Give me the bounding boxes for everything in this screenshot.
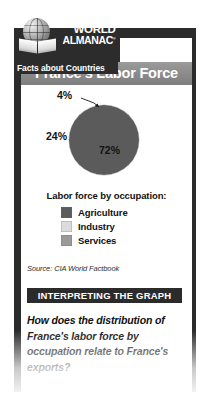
world-almanac-logo [18, 18, 58, 58]
pie-label-industry: 24% [46, 130, 67, 142]
pie-label-services: 72% [99, 144, 120, 156]
pie-chart: 4% 24% 72% [21, 88, 192, 186]
chart-source: Source: CIA World Factbook [27, 264, 119, 273]
book-page-left [19, 38, 37, 53]
interpreting-banner: INTERPRETING THE GRAPH [27, 288, 182, 303]
chart-legend: Labor force by occupation: Agriculture I… [21, 190, 192, 249]
legend-label-agriculture: Agriculture [78, 207, 128, 218]
open-book-icon [18, 38, 58, 54]
legend-item-industry: Industry [61, 221, 192, 232]
legend-label-services: Services [78, 235, 116, 246]
brand-wordmark: THEWORLD ALMANAC® [60, 20, 118, 46]
masthead: THEWORLD ALMANAC® Facts about Countries [14, 18, 120, 62]
legend-title: Labor force by occupation: [21, 190, 192, 201]
pie-slices [69, 105, 139, 175]
legend-item-services: Services [61, 235, 192, 246]
pie-label-agriculture: 4% [57, 89, 72, 101]
legend-swatch-agriculture [61, 207, 72, 218]
leader-line-agriculture [81, 97, 101, 108]
brand-the: THE [63, 21, 73, 26]
legend-item-agriculture: Agriculture [61, 207, 192, 218]
almanac-graph-card: THEWORLD ALMANAC® Facts about Countries … [0, 0, 209, 400]
brand-almanac: ALMANAC® [60, 35, 118, 46]
legend-swatch-industry [61, 221, 72, 232]
brand-almanac-text: ALMANAC [63, 34, 113, 46]
legend-swatch-services [61, 235, 72, 246]
legend-label-industry: Industry [78, 221, 115, 232]
book-page-right [38, 38, 56, 53]
brand-tagline: Facts about Countries [14, 62, 118, 74]
interpreting-question: How does the distribution of France's la… [27, 313, 185, 375]
registered-mark: ® [113, 36, 116, 41]
